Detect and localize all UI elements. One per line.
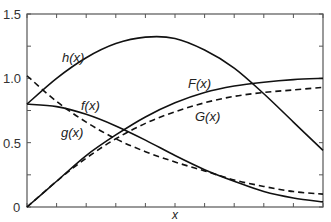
labels: 1.5 1.0 0.5 0 h(x) f(x) g(x) F(x) G(x) x xyxy=(3,7,220,222)
ytick-label-0: 0 xyxy=(13,200,20,215)
label-F: F(x) xyxy=(188,76,211,91)
chart: 1.5 1.0 0.5 0 h(x) f(x) g(x) F(x) G(x) x xyxy=(0,0,331,222)
label-g: g(x) xyxy=(61,125,83,140)
label-h: h(x) xyxy=(62,50,84,65)
ytick-label-1.0: 1.0 xyxy=(3,71,21,86)
curve-fx xyxy=(27,104,323,202)
xlabel: x xyxy=(171,208,179,222)
curve-Fx xyxy=(27,78,323,207)
label-f: f(x) xyxy=(81,98,100,113)
label-G: G(x) xyxy=(195,109,220,124)
ytick-label-1.5: 1.5 xyxy=(3,7,21,22)
ytick-label-0.5: 0.5 xyxy=(3,136,21,151)
